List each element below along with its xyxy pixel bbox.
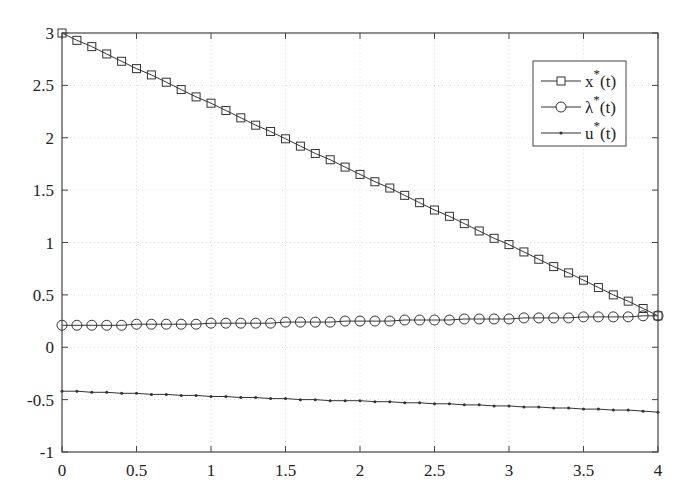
y-tick-label: 0.5 bbox=[33, 286, 54, 305]
x-tick-label: 3 bbox=[505, 461, 514, 480]
x-axis-tick-labels: 00.511.522.533.54 bbox=[58, 461, 663, 480]
dot-marker-icon bbox=[478, 403, 481, 406]
dot-marker-icon bbox=[180, 394, 183, 397]
dot-marker-icon bbox=[195, 394, 198, 397]
x-tick-label: 2.5 bbox=[424, 461, 445, 480]
x-tick-label: 0.5 bbox=[126, 461, 147, 480]
dot-marker-icon bbox=[105, 391, 108, 394]
dot-marker-icon bbox=[582, 408, 585, 411]
legend: x*(t) λ*(t) u*(t) bbox=[533, 61, 626, 146]
y-tick-label: 1.5 bbox=[33, 181, 54, 200]
y-axis-tick-labels: -1-0.500.511.522.53 bbox=[27, 24, 54, 462]
y-tick-label: -0.5 bbox=[27, 391, 54, 410]
dot-marker-icon bbox=[537, 405, 540, 408]
dot-marker-icon bbox=[403, 401, 406, 404]
dot-marker-icon bbox=[165, 393, 168, 396]
dot-marker-icon bbox=[463, 403, 466, 406]
line-chart: 00.511.522.533.54 -1-0.500.511.522.53 x*… bbox=[0, 0, 691, 501]
dot-marker-icon bbox=[612, 409, 615, 412]
legend-label-suffix: (t) bbox=[600, 98, 616, 117]
dot-marker-icon bbox=[120, 392, 123, 395]
dot-marker-icon bbox=[359, 399, 362, 402]
y-tick-label: 0 bbox=[46, 338, 55, 357]
legend-label-suffix: (t) bbox=[600, 72, 616, 91]
x-tick-label: 1.5 bbox=[275, 461, 296, 480]
y-tick-label: 2.5 bbox=[33, 76, 54, 95]
y-tick-label: 3 bbox=[46, 24, 55, 43]
dot-marker-icon bbox=[90, 391, 93, 394]
dot-marker-icon bbox=[210, 395, 213, 398]
dot-marker-icon bbox=[388, 400, 391, 403]
dot-marker-icon bbox=[567, 407, 570, 410]
dot-marker-icon bbox=[284, 397, 287, 400]
y-tick-label: 2 bbox=[46, 129, 55, 148]
dot-marker-icon bbox=[433, 402, 436, 405]
x-tick-label: 3.5 bbox=[573, 461, 594, 480]
dot-marker-icon bbox=[493, 404, 496, 407]
dot-marker-icon bbox=[373, 400, 376, 403]
y-tick-label: -1 bbox=[40, 443, 54, 462]
dot-marker-icon bbox=[269, 397, 272, 400]
dot-marker-icon bbox=[627, 409, 630, 412]
x-tick-label: 0 bbox=[58, 461, 67, 480]
dot-marker-icon bbox=[135, 392, 138, 395]
dot-marker-icon bbox=[642, 410, 645, 413]
x-tick-label: 1 bbox=[207, 461, 216, 480]
dot-marker-icon bbox=[522, 405, 525, 408]
dot-marker-icon bbox=[254, 396, 257, 399]
dot-marker-icon bbox=[150, 393, 153, 396]
dot-marker-icon bbox=[75, 390, 78, 393]
dot-marker-icon bbox=[224, 395, 227, 398]
dot-marker-icon bbox=[299, 398, 302, 401]
dot-marker-icon bbox=[552, 407, 555, 410]
square-marker-icon bbox=[557, 77, 565, 85]
circle-marker-icon bbox=[556, 102, 566, 112]
dot-marker-icon bbox=[597, 408, 600, 411]
dot-marker-icon bbox=[559, 131, 562, 134]
dot-marker-icon bbox=[344, 399, 347, 402]
dot-marker-icon bbox=[329, 399, 332, 402]
x-tick-label: 2 bbox=[356, 461, 365, 480]
y-tick-label: 1 bbox=[46, 234, 55, 253]
dot-marker-icon bbox=[314, 398, 317, 401]
dot-marker-icon bbox=[239, 396, 242, 399]
x-tick-label: 4 bbox=[654, 461, 663, 480]
dot-marker-icon bbox=[448, 402, 451, 405]
dot-marker-icon bbox=[508, 404, 511, 407]
legend-label-suffix: (t) bbox=[600, 124, 616, 143]
dot-marker-icon bbox=[418, 401, 421, 404]
